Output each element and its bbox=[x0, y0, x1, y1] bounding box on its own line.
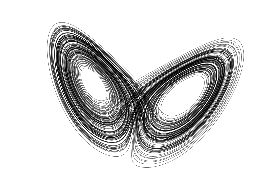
lorenz-attractor-figure bbox=[0, 0, 264, 189]
attractor-plot-canvas bbox=[0, 0, 264, 189]
